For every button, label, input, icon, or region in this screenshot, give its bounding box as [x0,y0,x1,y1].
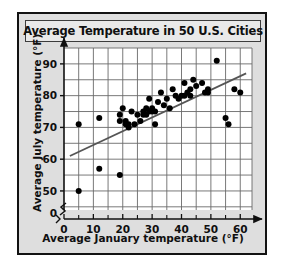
x-tick-label: 40 [174,223,189,235]
data-point [214,58,220,64]
data-point [132,121,138,127]
data-point [226,121,232,127]
y-origin-label: 0 [50,207,57,219]
x-tick-label: 60 [233,223,248,235]
data-point [158,89,164,95]
y-tick-label: 70 [42,121,57,133]
data-point [199,80,205,86]
data-point [161,102,167,108]
x-tick-label: 30 [145,223,160,235]
data-point [152,121,158,127]
data-point [167,105,173,111]
plot-background [64,48,252,210]
data-point [170,86,176,92]
data-point [164,96,170,102]
data-point [96,166,102,172]
data-point [76,188,82,194]
data-point [181,80,187,86]
data-point [134,112,140,118]
data-point [231,86,237,92]
data-point [117,112,123,118]
data-point [237,89,243,95]
data-point [187,93,193,99]
data-point [155,99,161,105]
y-tick-label: 80 [42,89,57,101]
x-tick-label: 50 [204,223,219,235]
data-point [137,118,143,124]
data-point [205,89,211,95]
data-point [223,115,229,121]
data-point [120,105,126,111]
scatter-plot: 506070809000102030405060 [19,14,269,257]
data-point [126,121,132,127]
data-point [76,121,82,127]
y-tick-label: 60 [42,153,57,165]
y-tick-label: 90 [42,58,57,70]
data-point [152,109,158,115]
data-point [117,118,123,124]
data-point [129,109,135,115]
data-point [193,83,199,89]
x-tick-label: 0 [60,223,67,235]
data-point [146,96,152,102]
x-tick-label: 10 [86,223,101,235]
data-point [96,115,102,121]
data-point [117,172,123,178]
data-point [187,86,193,92]
chart-figure: Average Temperature in 50 U.S. Cities Av… [17,12,267,255]
data-point [190,77,196,83]
y-tick-label: 50 [42,185,57,197]
x-tick-label: 20 [115,223,130,235]
